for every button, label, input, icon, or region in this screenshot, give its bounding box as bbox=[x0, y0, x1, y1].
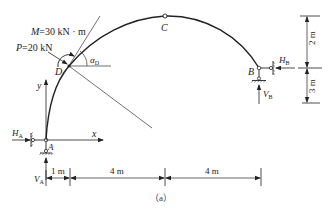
support-b bbox=[252, 61, 276, 83]
force-label: P=20 kN bbox=[15, 42, 52, 53]
point-d-label: D bbox=[54, 66, 63, 77]
moment-label: M=30 kN · m bbox=[30, 26, 86, 37]
hinge-c bbox=[163, 14, 167, 18]
normal-line-d bbox=[69, 66, 152, 128]
y-axis-label: y bbox=[36, 80, 42, 91]
x-axis-label: x bbox=[91, 128, 97, 139]
dim-4m-left-label: 4 m bbox=[110, 166, 124, 176]
dim-1m-label: 1 m bbox=[51, 166, 65, 176]
arch-diagram: M=30 kN · m P=20 kN D αD C B A y x HA VA… bbox=[0, 0, 328, 219]
reaction-va-label: VA bbox=[34, 174, 45, 185]
force-p-arrow bbox=[48, 52, 67, 64]
point-b-label: B bbox=[248, 66, 254, 77]
point-d bbox=[68, 65, 71, 68]
horizontal-dimension bbox=[46, 168, 261, 186]
reaction-ha-label: HA bbox=[11, 128, 24, 139]
point-c-label: C bbox=[161, 22, 168, 33]
dim-4m-right-label: 4 m bbox=[205, 166, 219, 176]
reaction-hb-label: HB bbox=[278, 55, 290, 66]
reaction-vb-label: VB bbox=[263, 89, 273, 100]
point-a-label: A bbox=[47, 142, 54, 152]
figure-caption: （a） bbox=[150, 193, 172, 203]
dim-3m-label: 3 m bbox=[307, 79, 317, 93]
dim-2m-label: 2 m bbox=[307, 31, 317, 45]
angle-label: αD bbox=[90, 55, 100, 66]
